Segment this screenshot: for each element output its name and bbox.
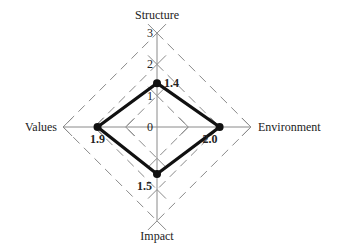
- value-label: 1.4: [164, 76, 179, 90]
- axis-label-environment: Environment: [258, 120, 321, 134]
- data-point: [94, 123, 102, 131]
- data-point: [153, 170, 161, 178]
- tick-label: 0: [147, 120, 153, 134]
- value-label: 1.5: [137, 179, 152, 193]
- axis-label-impact: Impact: [140, 229, 174, 243]
- data-point: [216, 123, 224, 131]
- data-point: [153, 79, 161, 87]
- radar-chart: 0123 1.42.01.51.9 StructureEnvironmentIm…: [0, 0, 337, 248]
- axis-labels: StructureEnvironmentImpactValues: [25, 8, 321, 243]
- tick-label: 2: [147, 57, 153, 71]
- axis-label-values: Values: [25, 120, 57, 134]
- axis-label-structure: Structure: [135, 8, 179, 22]
- tick-label: 3: [147, 26, 153, 40]
- value-label: 1.9: [90, 132, 105, 146]
- value-label: 2.0: [203, 132, 218, 146]
